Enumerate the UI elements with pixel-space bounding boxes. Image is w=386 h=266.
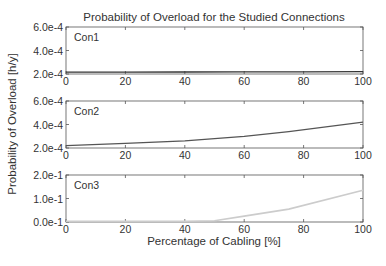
x-tick-label: 40 [179,149,191,161]
y-tick-label: 1.0e-1 [33,193,63,205]
chart-figure: Probability of Overload for the Studied … [0,0,386,266]
panel-label: Con3 [74,179,99,191]
y-tick-label: 4.0e-4 [33,45,63,57]
x-tick-label: 80 [298,223,310,235]
data-line [66,72,363,73]
y-tick-label: 2.0e-4 [33,142,63,154]
axes-box [66,101,363,148]
panel-con1: 0204060801006.0e-44.0e-42.0e-4Con1 [33,21,372,87]
y-tick-label: 2.0e-4 [33,68,63,80]
panel-con3: 0204060801002.0e-11.0e-10.0e-1Con3 [33,169,372,235]
x-tick-label: 20 [120,149,132,161]
x-tick-label: 0 [63,223,69,235]
x-tick-label: 0 [63,149,69,161]
x-tick-label: 40 [179,75,191,87]
y-tick-label: 2.0e-1 [33,169,63,181]
x-tick-label: 100 [354,75,372,87]
axes-box [66,175,363,222]
x-tick-label: 100 [354,223,372,235]
x-tick-label: 60 [238,223,250,235]
axes-box [66,27,363,74]
panel-label: Con1 [74,31,99,43]
x-tick-label: 60 [238,149,250,161]
y-axis-label: Probability of Overload [h/y] [6,53,18,194]
x-tick-label: 20 [120,223,132,235]
x-tick-label: 80 [298,75,310,87]
y-tick-label: 6.0e-4 [33,95,63,107]
x-tick-label: 0 [63,75,69,87]
x-tick-label: 100 [354,149,372,161]
y-tick-label: 6.0e-4 [33,21,63,33]
panel-con2: 0204060801006.0e-44.0e-42.0e-4Con2 [33,95,372,161]
chart-title: Probability of Overload for the Studied … [83,11,345,23]
y-tick-label: 4.0e-4 [33,119,63,131]
x-tick-label: 60 [238,75,250,87]
panels: 0204060801006.0e-44.0e-42.0e-4Con1020406… [33,21,372,235]
x-tick-label: 20 [120,75,132,87]
y-tick-label: 0.0e-1 [33,216,63,228]
x-tick-label: 40 [179,223,191,235]
x-tick-label: 80 [298,149,310,161]
panel-label: Con2 [74,105,99,117]
x-axis-label: Percentage of Cabling [%] [147,235,281,247]
